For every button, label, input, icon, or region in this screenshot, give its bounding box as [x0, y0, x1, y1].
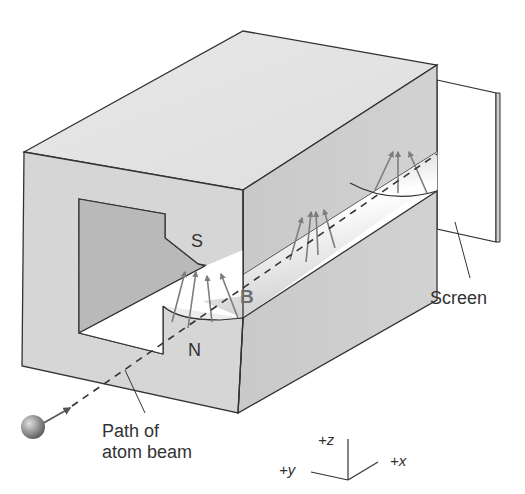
magnet-apparatus-diagram: S N B Screen Path of atom beam +z +y +x	[0, 0, 525, 494]
magnet	[22, 31, 437, 413]
coordinate-axes: +z +y +x	[279, 431, 407, 480]
field-label: B	[240, 286, 254, 307]
path-label-line2: atom beam	[102, 442, 192, 462]
axis-x-label: +x	[390, 452, 407, 469]
screen-label: Screen	[430, 288, 487, 308]
north-pole-label: N	[188, 340, 201, 360]
screen	[437, 80, 500, 242]
atom-icon	[21, 415, 45, 439]
axis-z-label: +z	[318, 431, 335, 448]
path-label-line1: Path of	[102, 421, 160, 441]
south-pole-label: S	[191, 231, 203, 251]
axis-y-label: +y	[279, 461, 297, 478]
